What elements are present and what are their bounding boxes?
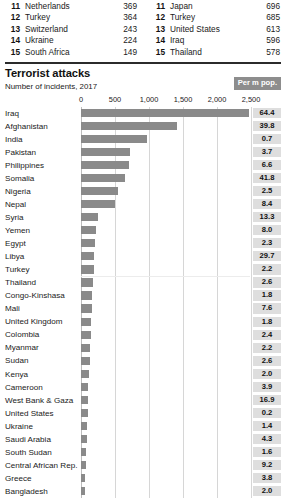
rank-country-name: Japan <box>165 1 254 12</box>
bar-row: Thailand2.6 <box>0 276 286 289</box>
rank-row: 13United States613 <box>151 24 280 35</box>
bar-row: Somalia41.8 <box>0 172 286 185</box>
bar <box>81 370 89 378</box>
bar-country-label: Somalia <box>5 172 34 185</box>
rank-number: 14 <box>6 35 20 46</box>
rank-value: 369 <box>111 1 137 12</box>
rank-row: 12Turkey685 <box>151 12 280 23</box>
bar-row: Syria13.3 <box>0 211 286 224</box>
rank-value: 696 <box>254 1 280 12</box>
bar <box>81 135 147 143</box>
rank-value: 613 <box>254 24 280 35</box>
bar-row: Turkey2.2 <box>0 263 286 276</box>
rank-number: 13 <box>151 24 165 35</box>
bar-row: Greece3.8 <box>0 472 286 485</box>
bar-row: Cameroon3.9 <box>0 381 286 394</box>
bar-row: Nepal8.4 <box>0 198 286 211</box>
bar-country-label: Iraq <box>5 107 19 120</box>
rank-number: 12 <box>6 12 20 23</box>
per-m-pop-value: 16.9 <box>253 395 281 405</box>
bar-row: Afghanistan39.8 <box>0 120 286 133</box>
bar-row: Mali7.6 <box>0 302 286 315</box>
bar-row: Saudi Arabia4.3 <box>0 433 286 446</box>
per-m-pop-value: 13.3 <box>253 212 281 222</box>
rank-number: 13 <box>6 24 20 35</box>
bar-country-label: Saudi Arabia <box>5 433 51 446</box>
x-tick-label: 2,500 <box>242 95 261 105</box>
rank-row: 11Netherlands369 <box>6 1 137 12</box>
bar <box>81 265 94 273</box>
x-tick-label: 2,000 <box>208 95 227 105</box>
rank-number: 11 <box>6 1 20 12</box>
bar <box>81 109 249 117</box>
bar-country-label: United Kingdom <box>5 315 63 328</box>
per-m-pop-value: 2.2 <box>253 343 281 353</box>
per-m-pop-value: 6.6 <box>253 160 281 170</box>
per-m-pop-value: 2.6 <box>253 356 281 366</box>
rank-number: 11 <box>151 1 165 12</box>
bar-row: Congo-Kinshasa1.8 <box>0 289 286 302</box>
bar <box>81 226 96 234</box>
bar-country-label: India <box>5 133 23 146</box>
rank-row: 12Turkey364 <box>6 12 137 23</box>
bar <box>81 435 87 443</box>
per-m-pop-value: 2.2 <box>253 264 281 274</box>
bar-row: South Sudan1.6 <box>0 446 286 459</box>
terrorist-attacks-chart: Terrorist attacks Number of incidents, 2… <box>0 62 286 469</box>
bar-country-label: United States <box>5 407 54 420</box>
bar-country-label: Cameroon <box>5 381 43 394</box>
bar <box>81 422 87 430</box>
bar-country-label: Nepal <box>5 198 26 211</box>
bar-country-label: Thailand <box>5 276 36 289</box>
per-m-pop-value: 4.3 <box>253 434 281 444</box>
per-m-pop-value: 64.4 <box>253 108 281 118</box>
bar <box>81 448 86 456</box>
top-ranked-lists: 11Netherlands36912Turkey36413Switzerland… <box>0 0 286 58</box>
bar-row: Sudan2.6 <box>0 354 286 367</box>
bar-country-label: Ukraine <box>5 420 33 433</box>
bar-country-label: South Sudan <box>5 446 52 459</box>
bar-row: Bangladesh2.0 <box>0 485 286 498</box>
per-m-pop-value: 8.0 <box>253 225 281 235</box>
rank-number: 14 <box>151 35 165 46</box>
per-m-pop-value: 2.6 <box>253 277 281 287</box>
rank-value: 685 <box>254 12 280 23</box>
bar-country-label: Kenya <box>5 368 28 381</box>
bar <box>81 122 177 130</box>
per-m-pop-value: 2.4 <box>253 330 281 340</box>
rank-country-name: Netherlands <box>20 1 111 12</box>
rank-country-name: Thailand <box>165 47 254 58</box>
bar <box>81 187 118 195</box>
per-m-pop-value: 9.2 <box>253 460 281 470</box>
bar-row: Myanmar2.2 <box>0 341 286 354</box>
rank-value: 224 <box>111 35 137 46</box>
bar-country-label: Myanmar <box>5 341 39 354</box>
bar <box>81 252 94 260</box>
bar-country-label: Libya <box>5 250 24 263</box>
bar-row: Libya29.7 <box>0 250 286 263</box>
bar <box>81 409 88 417</box>
rank-value: 578 <box>254 47 280 58</box>
rank-country-name: United States <box>165 24 254 35</box>
bar-row: Pakistan3.7 <box>0 146 286 159</box>
bar-country-label: Nigeria <box>5 185 31 198</box>
rank-country-name: Iraq <box>165 35 254 46</box>
per-m-pop-value: 1.4 <box>253 421 281 431</box>
bar-country-label: Yemen <box>5 224 30 237</box>
bar-country-label: Central African Rep. <box>5 459 77 472</box>
bar-row: Egypt2.3 <box>0 237 286 250</box>
bar-row: West Bank & Gaza16.9 <box>0 394 286 407</box>
per-m-pop-value: 0.2 <box>253 408 281 418</box>
bar <box>81 318 91 326</box>
bar <box>81 304 92 312</box>
per-m-pop-value: 7.6 <box>253 303 281 313</box>
bar <box>81 291 92 299</box>
x-tick-label: 1,000 <box>140 95 159 105</box>
soft-separator <box>81 276 250 277</box>
per-m-pop-header-badge: Per m pop. <box>234 77 281 91</box>
bar <box>81 161 129 169</box>
bar <box>81 344 90 352</box>
x-tick-label: 500 <box>109 95 121 105</box>
rank-country-name: Ukraine <box>20 35 111 46</box>
per-m-pop-value: 2.0 <box>253 369 281 379</box>
